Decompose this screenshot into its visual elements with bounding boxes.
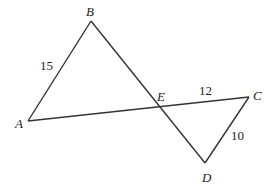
point-label-b: B [86, 4, 94, 19]
measure-ec: 12 [199, 83, 212, 98]
point-label-a: A [14, 116, 23, 131]
measure-ab: 15 [40, 58, 53, 73]
segment-ac [28, 97, 249, 121]
geometry-diagram: B A E C D 15 12 10 [0, 0, 273, 187]
measure-cd: 10 [231, 128, 244, 143]
point-label-d: D [201, 170, 212, 185]
segment-bd [91, 21, 205, 163]
point-label-e: E [156, 89, 165, 104]
point-label-c: C [253, 88, 262, 103]
segment-ab [28, 21, 91, 121]
